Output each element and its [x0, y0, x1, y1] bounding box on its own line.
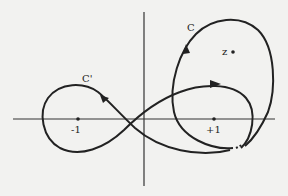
point-plus-one — [212, 117, 216, 121]
label-c-prime: C' — [82, 73, 92, 84]
point-z — [231, 50, 235, 54]
label-plus-one: +1 — [206, 124, 221, 135]
label-z: z — [222, 46, 227, 57]
label-minus-one: -1 — [71, 124, 81, 135]
point-minus-one — [76, 117, 80, 121]
contour-c — [172, 20, 273, 148]
contour-diagram: C C' z -1 +1 — [0, 0, 288, 196]
label-c: C — [187, 22, 195, 33]
